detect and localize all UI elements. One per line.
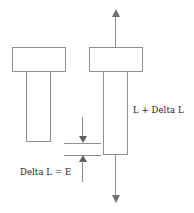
loaded-specimen-shaft [103,71,128,155]
elongation-upper-stem [82,117,83,137]
loaded-specimen-head [89,47,143,72]
tensile-load-down-arrow-icon [112,195,120,203]
unloaded-specimen-head [12,47,66,72]
tensile-load-up-arrow-icon [112,9,120,17]
elongation-lower-stem [82,161,83,182]
tensile-load-up-stem [115,16,116,47]
elongation-down-arrow-icon [79,136,87,143]
tensile-elongation-diagram: Delta L = E L + Delta L [0,0,194,213]
elongation-label: Delta L = E [20,167,71,177]
elongation-upper-extension-line [64,143,101,144]
tensile-load-down-stem [115,155,116,196]
unloaded-specimen-shaft [26,71,51,142]
stretched-length-label: L + Delta L [133,105,184,115]
